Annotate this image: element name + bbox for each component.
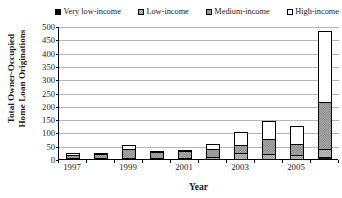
bar-group[interactable] (290, 126, 305, 160)
bar-segment (290, 144, 305, 155)
bar-chart: Very low-income Low-income Medium-income… (0, 0, 342, 198)
bar-group[interactable] (206, 144, 221, 160)
legend-swatch-high-income (287, 9, 293, 15)
bar-segment (318, 149, 333, 157)
bar-segment (234, 132, 249, 146)
y-tick-label: 50 (26, 143, 55, 152)
y-tick-label: 300 (26, 76, 55, 85)
legend-swatch-medium-income (206, 9, 212, 15)
x-tick-label: 1999 (119, 163, 137, 172)
y-axis-title-line1: Total Owner-Occupied (6, 4, 17, 154)
y-tick-label: 100 (26, 129, 55, 138)
bar-segment (122, 149, 137, 158)
x-axis-tick-labels: 19971999200120032005 (58, 163, 338, 177)
bar-segment (206, 149, 221, 157)
bar-segment (178, 151, 193, 158)
x-tick-label: 2003 (231, 163, 249, 172)
y-tick-label: 0 (26, 156, 55, 165)
legend-item-very-low-income[interactable]: Very low-income (55, 8, 121, 16)
x-tick-label: 2001 (175, 163, 193, 172)
y-tick-label: 200 (26, 103, 55, 112)
chart-legend: Very low-income Low-income Medium-income… (55, 6, 339, 19)
bar-group[interactable] (262, 121, 277, 160)
legend-item-low-income[interactable]: Low-income (138, 8, 189, 16)
y-tick-label: 450 (26, 36, 55, 45)
x-tick-mark (338, 160, 339, 163)
legend-item-medium-income[interactable]: Medium-income (206, 8, 270, 16)
y-tick-label: 400 (26, 50, 55, 59)
bar-segment (290, 126, 305, 144)
bar-group[interactable] (150, 151, 165, 160)
x-axis-title: Year (58, 182, 339, 192)
bar-group[interactable] (234, 132, 249, 160)
y-tick-label: 250 (26, 90, 55, 99)
bar-group[interactable] (94, 153, 109, 160)
bar-group[interactable] (318, 31, 333, 160)
y-tick-label: 150 (26, 116, 55, 125)
y-axis-title: Total Owner-Occupied Home Loan Originati… (6, 4, 27, 154)
legend-label-low-income: Low-income (146, 8, 188, 16)
y-tick-label: 500 (26, 23, 55, 32)
legend-swatch-low-income (138, 9, 144, 15)
bar-segment (318, 31, 333, 101)
bar-segment (318, 102, 333, 150)
bar-segment (234, 145, 249, 152)
bar-segment (262, 121, 277, 140)
legend-item-high-income[interactable]: High-income (287, 8, 339, 16)
legend-label-very-low-income: Very low-income (64, 8, 121, 16)
bar-group[interactable] (122, 145, 137, 160)
y-tick-label: 350 (26, 63, 55, 72)
bar-series-container (59, 27, 339, 160)
legend-label-medium-income: Medium-income (214, 8, 269, 16)
bar-segment (234, 153, 249, 160)
legend-label-high-income: High-income (295, 8, 339, 16)
x-tick-label: 1997 (63, 163, 81, 172)
bar-segment (262, 139, 277, 154)
legend-swatch-very-low-income (55, 9, 61, 15)
bar-group[interactable] (178, 150, 193, 161)
x-tick-label: 2005 (287, 163, 305, 172)
y-axis-tick-labels: 050100150200250300350400450500 (26, 20, 55, 168)
plot-area (58, 27, 338, 160)
